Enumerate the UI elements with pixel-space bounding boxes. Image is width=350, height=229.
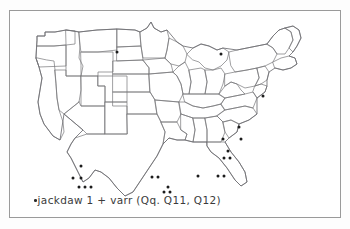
map-dot [223,157,226,160]
map-dot [90,186,93,189]
state-boundaries [36,22,301,196]
map-dot [80,165,83,168]
map-dot [116,51,119,54]
map-dot [220,53,223,56]
map-dot [157,176,160,179]
map-dot [197,175,200,178]
caption-text: jackdaw 1 + varr (Qq. Q11, Q12) [38,194,221,206]
map-dot [217,175,220,178]
map-dot [84,186,87,189]
map-dot [72,177,75,180]
map-dot [238,126,241,129]
distribution-map [9,10,341,218]
map-dot [80,177,83,180]
map-dot [223,175,226,178]
national-outline [36,22,301,196]
map-dot [167,186,170,189]
map-caption: jackdaw 1 + varr (Qq. Q11, Q12) [34,190,324,210]
map-dot [262,95,265,98]
map-dot [151,176,154,179]
map-dot [227,150,230,153]
map-dot [240,138,243,141]
caption-bullet-icon [34,199,37,202]
map-dot [78,186,81,189]
figure-plate: jackdaw 1 + varr (Qq. Q11, Q12) [0,0,350,229]
map-dot [222,138,225,141]
map-svg [9,10,341,218]
map-dot [229,157,232,160]
